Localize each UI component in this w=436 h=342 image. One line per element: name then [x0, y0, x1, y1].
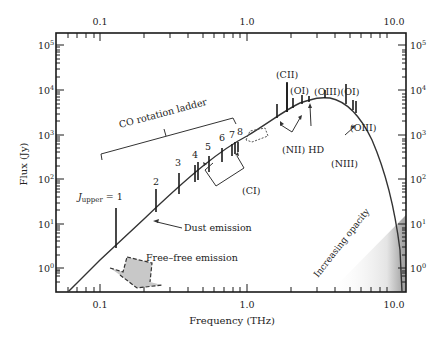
hd-arrow-head — [308, 103, 312, 108]
co-ladder-bracket-tick — [164, 129, 166, 136]
svg-text:102: 102 — [38, 173, 54, 185]
nii-arrows — [281, 118, 300, 132]
x-axis-top-ticks — [68, 33, 387, 41]
svg-text:101: 101 — [410, 218, 426, 230]
hd-arrow — [310, 106, 311, 126]
nii-hd-label: (NII) HD — [282, 144, 325, 155]
x-tick-top-1.0: 1.0 — [239, 16, 254, 27]
x-tick-bottom-1.0: 1.0 — [239, 299, 254, 310]
x-axis-title: Frequency (THz) — [189, 315, 275, 326]
co-level-4: 4 — [192, 149, 198, 160]
co-level-3: 3 — [175, 157, 181, 168]
svg-text:100: 100 — [38, 262, 54, 274]
y-axis-left-ticks — [56, 45, 64, 282]
oi-label: (OI) — [290, 85, 309, 96]
svg-text:104: 104 — [38, 84, 54, 96]
co-level-2: 2 — [153, 176, 159, 187]
svg-text:101: 101 — [38, 218, 54, 230]
free-free-label: Free–free emission — [146, 252, 238, 263]
svg-text:104: 104 — [410, 84, 426, 96]
y-tick-labels-left: 100 101 102 103 104 105 — [38, 39, 54, 274]
cii-label: (CII) — [276, 69, 298, 80]
x-tick-top-10.0: 10.0 — [383, 16, 404, 27]
x-tick-bottom-0.1: 0.1 — [92, 299, 107, 310]
svg-text:105: 105 — [38, 39, 54, 51]
oiii-oi-label: (OIII)(OI) — [314, 86, 359, 97]
niii-label: (NIII) — [331, 158, 358, 169]
co-ladder-label: CO rotation ladder — [118, 96, 209, 130]
opacity-shade — [330, 215, 406, 292]
co-level-6: 6 — [219, 132, 225, 143]
svg-text:105: 105 — [410, 39, 426, 51]
x-tick-bottom-10.0: 10.0 — [383, 299, 404, 310]
svg-text:100: 100 — [410, 262, 426, 274]
nii-arrow-head-right — [298, 115, 302, 120]
jupper-label: Jupper = 1 — [76, 191, 123, 204]
co-level-7: 7 — [229, 129, 235, 140]
y-tick-labels-right: 100 101 102 103 104 105 — [410, 39, 426, 274]
svg-text:102: 102 — [410, 173, 426, 185]
ci-label: (CI) — [242, 185, 260, 196]
dust-arrow — [157, 222, 182, 228]
co-level-5: 5 — [205, 141, 211, 152]
svg-text:103: 103 — [38, 129, 54, 141]
dust-emission-label: Dust emission — [184, 222, 252, 233]
y-axis-title: Flux (Jy) — [18, 142, 29, 185]
co-level-8: 8 — [237, 126, 243, 137]
x-tick-top-0.1: 0.1 — [92, 16, 107, 27]
dust-arrow-head — [153, 219, 159, 223]
sed-chart: 0.1 1.0 10.0 0.1 1.0 10.0 100 101 102 10… — [0, 0, 436, 342]
svg-text:103: 103 — [410, 129, 426, 141]
